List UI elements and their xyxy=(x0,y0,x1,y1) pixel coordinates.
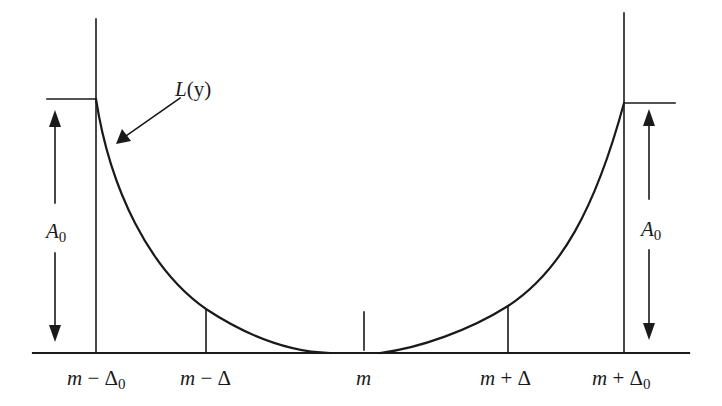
right-amplitude-label: A0 xyxy=(639,217,661,243)
curve-label: L(y) xyxy=(174,77,211,101)
axis-label-m-minus-delta: m − Δ xyxy=(180,366,231,390)
loss-curve-left xyxy=(96,99,330,353)
right-amplitude-arrowhead-up xyxy=(643,109,655,126)
curve-pointer-arrowhead xyxy=(116,129,131,144)
left-amplitude-arrowhead-down xyxy=(49,325,61,342)
left-amplitude-label: A0 xyxy=(44,219,66,245)
curve-pointer-arrow xyxy=(126,98,180,136)
left-amplitude-arrowhead-up xyxy=(49,110,61,127)
loss-function-diagram: L(y) A0 A0 m − Δ0 m − Δ m m + Δ m + Δ0 xyxy=(0,0,722,406)
axis-label-m: m xyxy=(356,366,371,390)
right-amplitude-arrowhead-down xyxy=(643,323,655,340)
axis-label-m-plus-delta0: m + Δ0 xyxy=(592,366,651,392)
loss-curve-right xyxy=(380,103,624,353)
axis-label-m-plus-delta: m + Δ xyxy=(480,366,531,390)
axis-label-m-minus-delta0: m − Δ0 xyxy=(67,366,126,392)
